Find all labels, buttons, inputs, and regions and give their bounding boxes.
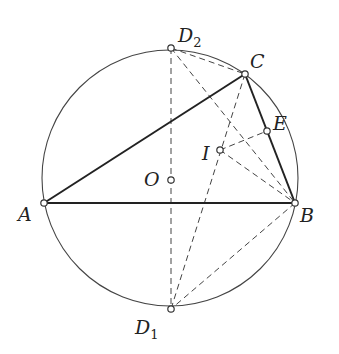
point-o bbox=[168, 177, 174, 183]
point-a bbox=[41, 200, 47, 206]
solid-segments bbox=[44, 74, 295, 203]
segment-c-b bbox=[245, 74, 295, 203]
point-b bbox=[292, 200, 298, 206]
label-a: A bbox=[16, 203, 32, 225]
point-labels: ABCD1D2EIO bbox=[16, 24, 314, 342]
label-o: O bbox=[144, 168, 160, 190]
point-e bbox=[264, 128, 270, 134]
segment-b-d1 bbox=[171, 203, 295, 309]
segment-c-d1 bbox=[171, 74, 245, 309]
label-c: C bbox=[250, 50, 265, 72]
point-d1 bbox=[168, 306, 174, 312]
label-d1: D1 bbox=[134, 316, 159, 342]
label-e: E bbox=[272, 112, 287, 134]
point-i bbox=[217, 147, 223, 153]
segment-i-e bbox=[220, 131, 267, 150]
label-b: B bbox=[299, 204, 314, 226]
dashed-segments bbox=[171, 48, 295, 309]
label-i: I bbox=[201, 142, 210, 164]
segment-d2-c bbox=[171, 48, 245, 74]
points bbox=[41, 45, 298, 312]
point-c bbox=[242, 71, 248, 77]
point-d2 bbox=[168, 45, 174, 51]
geometry-diagram: ABCD1D2EIO bbox=[0, 0, 339, 354]
label-d2: D2 bbox=[177, 24, 202, 50]
